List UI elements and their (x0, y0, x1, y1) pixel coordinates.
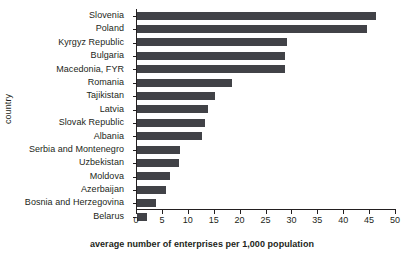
x-axis-tick (162, 210, 163, 214)
category-label: Belarus (0, 210, 130, 223)
y-axis-tick (133, 190, 136, 191)
bar (137, 159, 179, 167)
category-label: Slovenia (0, 9, 130, 22)
x-axis-tick (266, 210, 267, 214)
y-axis-tick (133, 177, 136, 178)
bar-row (137, 170, 395, 183)
y-axis-tick (133, 29, 136, 30)
x-axis-ticks: 05101520253035404550 (136, 210, 395, 230)
category-label: Tajikistan (0, 89, 130, 102)
bar-row (137, 130, 395, 143)
y-axis-tick (133, 150, 136, 151)
y-axis-tick (133, 16, 136, 17)
category-label: Poland (0, 22, 130, 35)
bar (137, 199, 156, 207)
bar-row (137, 89, 395, 102)
x-axis-tick (214, 210, 215, 214)
bar (137, 146, 180, 154)
bar-row (137, 156, 395, 169)
bar-row (137, 196, 395, 209)
bar-row (137, 76, 395, 89)
x-axis-tick (188, 210, 189, 214)
bar-row (137, 49, 395, 62)
category-label: Azerbaijan (0, 183, 130, 196)
bar (137, 25, 367, 33)
category-label: Slovak Republic (0, 116, 130, 129)
bar-series (137, 9, 395, 223)
y-axis-tick (133, 69, 136, 70)
y-axis-tick (133, 83, 136, 84)
y-axis-tick (133, 163, 136, 164)
bar (137, 172, 170, 180)
bar-row (137, 36, 395, 49)
y-axis-tick (133, 96, 136, 97)
y-axis-tick (133, 136, 136, 137)
bar-row (137, 9, 395, 22)
category-label: Bulgaria (0, 49, 130, 62)
x-axis-tick (317, 210, 318, 214)
category-label: Serbia and Montenegro (0, 143, 130, 156)
bar (137, 38, 287, 46)
x-axis-tick (395, 210, 396, 214)
x-axis-tick (343, 210, 344, 214)
bar-row (137, 116, 395, 129)
category-label: Romania (0, 76, 130, 89)
category-label: Uzbekistan (0, 156, 130, 169)
x-axis-tick-label: 50 (380, 215, 404, 225)
y-axis-tick (133, 203, 136, 204)
bar (137, 65, 285, 73)
category-label: Moldova (0, 170, 130, 183)
x-axis-tick (369, 210, 370, 214)
bar-row (137, 103, 395, 116)
bar (137, 92, 215, 100)
y-axis-tick (133, 110, 136, 111)
x-axis-tick (240, 210, 241, 214)
bar (137, 132, 202, 140)
bar (137, 79, 232, 87)
bar (137, 186, 166, 194)
bar (137, 52, 285, 60)
bar (137, 12, 376, 20)
x-axis-tick (291, 210, 292, 214)
bar (137, 119, 205, 127)
bar-row (137, 22, 395, 35)
bar-chart: country SloveniaPolandKyrgyz RepublicBul… (0, 0, 404, 258)
category-label: Latvia (0, 103, 130, 116)
bar (137, 105, 208, 113)
category-label: Kyrgyz Republic (0, 36, 130, 49)
y-axis-tick (133, 43, 136, 44)
category-label: Macedonia, FYR (0, 63, 130, 76)
bar-row (137, 183, 395, 196)
bar-row (137, 63, 395, 76)
plot-area (136, 9, 395, 210)
category-label: Albania (0, 130, 130, 143)
bar-row (137, 143, 395, 156)
x-axis-label: average number of enterprises per 1,000 … (0, 239, 404, 249)
y-axis-tick (133, 123, 136, 124)
category-label-column: SloveniaPolandKyrgyz RepublicBulgariaMac… (0, 9, 130, 223)
category-label: Bosnia and Herzegovina (0, 196, 130, 209)
x-axis-tick (136, 210, 137, 214)
y-axis-tick (133, 56, 136, 57)
